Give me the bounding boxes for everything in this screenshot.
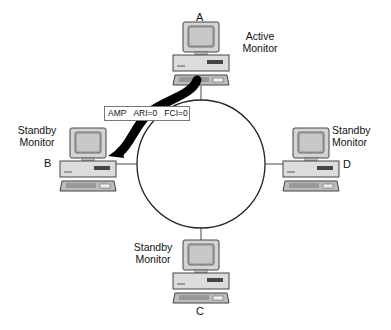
- amp-frame-label: AMPARI=0FCI=0: [104, 106, 190, 121]
- station-c-letter: C: [196, 305, 204, 317]
- station-a-letter: A: [196, 11, 203, 23]
- frame-field-fci: FCI=0: [164, 108, 187, 118]
- computer-b: [60, 128, 116, 191]
- station-d-role: Standby Monitor: [332, 124, 391, 148]
- station-c-role: Standby Monitor: [130, 241, 176, 265]
- computer-a: [173, 22, 229, 85]
- station-d-letter: D: [343, 158, 351, 170]
- computer-d: [283, 128, 339, 191]
- station-b-role: Standby Monitor: [14, 124, 60, 148]
- station-b-letter: B: [44, 157, 51, 169]
- frame-field-ari: ARI=0: [133, 108, 157, 118]
- frame-field-amp: AMP: [108, 108, 126, 118]
- arrow-head-icon: [108, 146, 124, 158]
- token-ring-diagram: [0, 0, 391, 330]
- station-a-role: Active Monitor: [230, 30, 290, 54]
- computer-c: [173, 240, 229, 303]
